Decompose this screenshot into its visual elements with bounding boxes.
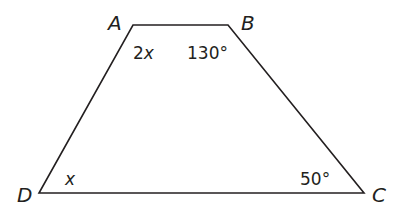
vertex-label-c: C xyxy=(372,183,386,207)
vertex-label-b: B xyxy=(241,11,255,35)
angle-label-d: x xyxy=(64,169,76,189)
trapezoid-diagram: A B C D 2x 130° 50° x xyxy=(0,0,411,216)
angle-label-c: 50° xyxy=(300,169,330,189)
vertex-label-a: A xyxy=(106,11,122,35)
angle-label-a: 2x xyxy=(133,43,155,63)
angle-a-variable: x xyxy=(143,43,155,63)
angle-label-b: 130° xyxy=(187,43,228,63)
angle-a-coefficient: 2 xyxy=(133,43,144,63)
vertex-label-d: D xyxy=(17,183,32,207)
